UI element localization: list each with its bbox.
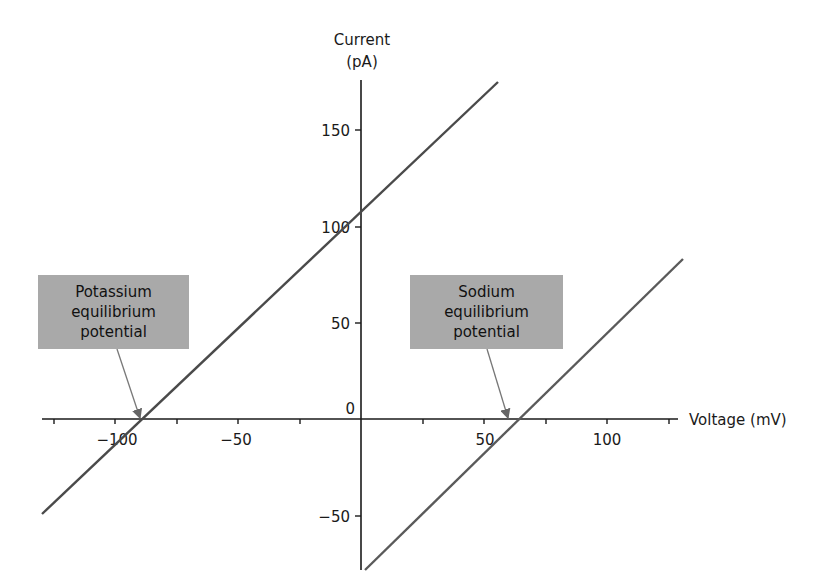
sodium-annotation-arrow: [487, 349, 508, 418]
potassium-annotation-line1: Potassium: [38, 282, 189, 302]
potassium-annotation-line2: equilibrium: [38, 302, 189, 322]
x-axis-title: Voltage (mV): [689, 411, 787, 429]
y-tick-label-50: 50: [331, 315, 350, 333]
y-tick-label-0: 0: [345, 400, 355, 418]
x-tick-label-neg50: −50: [220, 431, 252, 449]
sodium-annotation-line1: Sodium: [410, 282, 563, 302]
y-tick-label-150: 150: [321, 122, 350, 140]
x-tick-label-neg100: −100: [96, 431, 137, 449]
potassium-annotation-arrow: [117, 349, 140, 418]
y-ticks: [355, 130, 361, 516]
y-axis-title-line2: (pA): [346, 53, 378, 71]
sodium-annotation-line3: potential: [410, 322, 563, 342]
x-tick-label-100: 100: [593, 431, 622, 449]
y-axis-title-line1: Current: [334, 31, 390, 49]
potassium-annotation-box: Potassium equilibrium potential: [38, 275, 189, 349]
potassium-annotation-line3: potential: [38, 322, 189, 342]
sodium-annotation-line2: equilibrium: [410, 302, 563, 322]
sodium-annotation-box: Sodium equilibrium potential: [410, 275, 563, 349]
y-tick-label-neg50: −50: [318, 508, 350, 526]
